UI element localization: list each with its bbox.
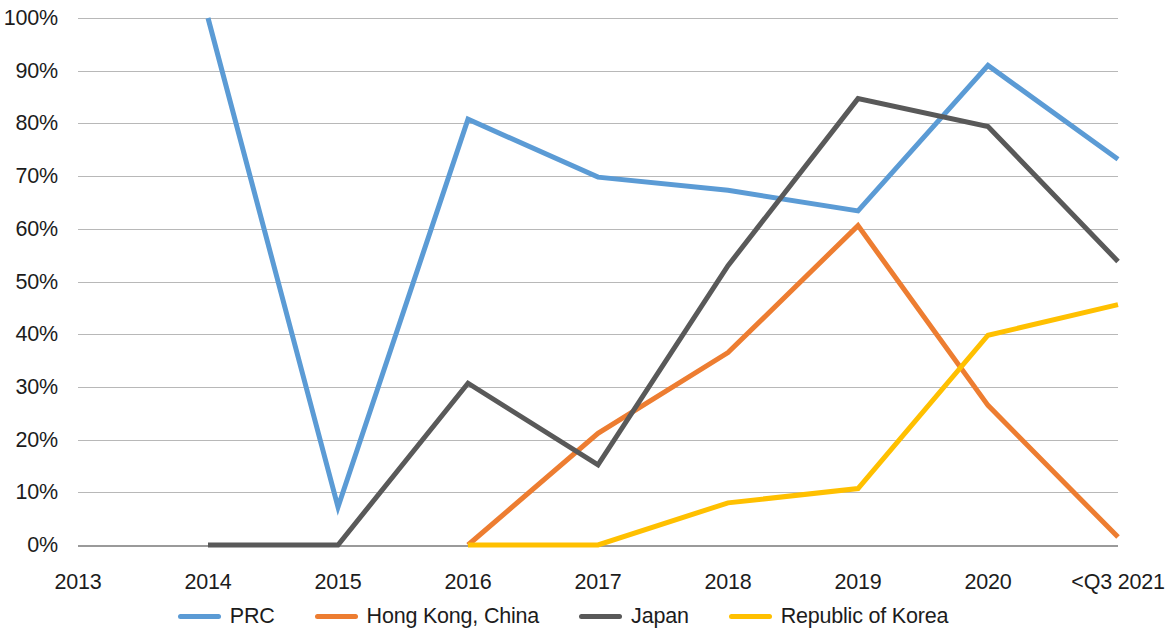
x-axis-tick-label: 2015 bbox=[314, 570, 361, 595]
y-axis-tick-label: 60% bbox=[0, 216, 58, 241]
x-axis-tick-label: 2013 bbox=[54, 570, 101, 595]
y-axis-tick-label: 30% bbox=[0, 374, 58, 399]
y-axis-tick-label: 100% bbox=[0, 6, 58, 31]
legend-swatch-hong-kong-china bbox=[315, 614, 358, 619]
x-axis-tick-label: 2016 bbox=[444, 570, 491, 595]
legend-item-label: Republic of Korea bbox=[781, 604, 949, 629]
legend-swatch-prc bbox=[178, 614, 221, 619]
legend-item[interactable]: Republic of Korea bbox=[729, 604, 949, 629]
legend-item[interactable]: Japan bbox=[579, 604, 689, 629]
plot-area: 100%90%80%70%60%50%40%30%20%10%0% 201320… bbox=[78, 18, 1118, 545]
y-axis-tick-label: 80% bbox=[0, 111, 58, 136]
y-axis-tick-label: 10% bbox=[0, 480, 58, 505]
x-axis-tick-label: 2014 bbox=[184, 570, 231, 595]
legend-item-label: Japan bbox=[631, 604, 689, 629]
series-line bbox=[208, 99, 1118, 545]
legend-swatch-republic-of-korea bbox=[729, 614, 772, 619]
y-axis-tick-label: 50% bbox=[0, 269, 58, 294]
x-axis-tick-label: 2019 bbox=[834, 570, 881, 595]
x-axis-tick-label: 2018 bbox=[704, 570, 751, 595]
legend-swatch-japan bbox=[579, 614, 622, 619]
y-axis-tick-label: 0% bbox=[0, 533, 58, 558]
y-axis-tick-label: 20% bbox=[0, 427, 58, 452]
x-axis-tick-label: <Q3 2021 bbox=[1071, 570, 1164, 595]
x-axis-tick-label: 2020 bbox=[964, 570, 1011, 595]
series-line bbox=[208, 18, 1118, 507]
series-lines bbox=[78, 18, 1118, 545]
legend-item-label: Hong Kong, China bbox=[367, 604, 540, 629]
y-axis-tick-label: 90% bbox=[0, 58, 58, 83]
chart-legend: PRCHong Kong, ChinaJapanRepublic of Kore… bbox=[0, 604, 1126, 629]
y-axis-tick-label: 40% bbox=[0, 322, 58, 347]
legend-item-label: PRC bbox=[230, 604, 275, 629]
x-axis-tick-label: 2017 bbox=[574, 570, 621, 595]
legend-item[interactable]: PRC bbox=[178, 604, 275, 629]
y-axis-tick-label: 70% bbox=[0, 164, 58, 189]
series-line bbox=[468, 305, 1118, 545]
legend-item[interactable]: Hong Kong, China bbox=[315, 604, 540, 629]
